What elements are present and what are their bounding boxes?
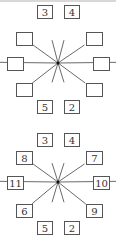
box-label: 8 (21, 153, 27, 164)
spoke-diagrams: 3452348711106952 (0, 0, 116, 239)
spoke-line (32, 63, 58, 83)
spoke-line (58, 163, 64, 182)
box-label: 2 (69, 223, 75, 234)
spoke-line (58, 63, 85, 83)
spoke-line (58, 164, 84, 182)
box-label: 3 (42, 7, 48, 18)
box-label: 10 (95, 178, 108, 189)
box-label: 9 (91, 206, 97, 217)
spoke-line (33, 164, 58, 182)
box-label: 6 (21, 206, 27, 217)
box-label: 4 (69, 135, 75, 146)
spoke-line (32, 182, 58, 204)
center-dot (57, 62, 60, 65)
box-label: 2 (69, 102, 75, 113)
box-upper-right (87, 33, 103, 46)
box-lower-right (87, 84, 103, 97)
box-label: 3 (42, 135, 48, 146)
box-label: 5 (42, 223, 48, 234)
spoke-line (52, 63, 58, 82)
diagram-complete: 348711106952 (0, 134, 116, 235)
spoke-line (52, 163, 58, 182)
box-lower-left (17, 84, 33, 97)
box-upper-left (17, 33, 33, 46)
center-dot (57, 181, 60, 184)
diagram-partial: 3452 (0, 6, 116, 114)
box-label: 7 (91, 153, 97, 164)
spoke-line (58, 182, 86, 204)
box-label: 11 (9, 178, 22, 189)
box-right (94, 58, 110, 71)
box-label: 5 (42, 102, 48, 113)
box-left (8, 58, 24, 71)
box-label: 4 (69, 7, 75, 18)
spoke-line (58, 182, 64, 202)
spoke-line (58, 63, 64, 82)
